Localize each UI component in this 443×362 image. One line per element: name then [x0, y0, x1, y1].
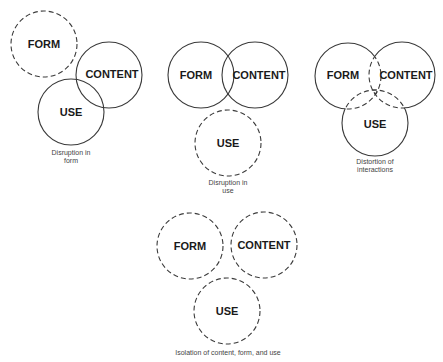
caption-line-2: interactions	[357, 166, 393, 173]
caption-line-2: form	[64, 157, 78, 164]
diagram-isolation: FORM CONTENT USE Isolation of content, f…	[157, 212, 297, 356]
caption-line-1: Disruption in	[52, 149, 91, 157]
form-label: FORM	[174, 240, 206, 252]
diagram-disruption-in-form: FORM CONTENT USE Disruption in form	[11, 11, 142, 164]
content-label: CONTENT	[85, 68, 138, 80]
content-label: CONTENT	[237, 239, 290, 251]
use-label: USE	[364, 118, 387, 130]
use-label: USE	[60, 106, 83, 118]
caption-line-1: Disruption in	[209, 179, 248, 187]
use-label: USE	[217, 137, 240, 149]
caption-line-1: Distortion of	[356, 158, 393, 165]
form-label: FORM	[327, 69, 359, 81]
form-label: FORM	[28, 38, 60, 50]
caption-line-2: use	[222, 187, 233, 194]
content-label: CONTENT	[232, 69, 285, 81]
form-label: FORM	[180, 69, 212, 81]
content-label: CONTENT	[379, 69, 432, 81]
use-label: USE	[216, 305, 239, 317]
diagram-distortion-of-interactions: FORM CONTENT USE Distortion of interacti…	[315, 42, 435, 173]
caption-line-1: Isolation of content, form, and use	[175, 349, 281, 356]
venn-diagrams-figure: FORM CONTENT USE Disruption in form FORM…	[0, 0, 443, 362]
diagram-disruption-in-use: FORM CONTENT USE Disruption in use	[168, 42, 288, 194]
